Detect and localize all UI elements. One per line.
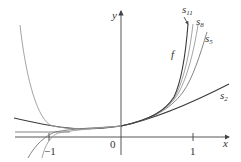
origin-label: 0 <box>110 138 116 150</box>
curve-label-s2: s2 <box>220 89 228 103</box>
curve-s11 <box>121 24 193 126</box>
y-axis-label: y <box>111 9 117 21</box>
x-axis-label: x <box>222 137 228 149</box>
curve-s-even-left <box>20 25 121 129</box>
curve-label-s5: s5 <box>205 32 213 46</box>
curve-label-s11: s11 <box>182 3 193 17</box>
s11-pointer-arrow <box>184 17 188 24</box>
tick-label-minus-1: −1 <box>44 145 56 157</box>
series-approximation-diagram: y x 0 −1 1 f s11 s8 s5 s2 <box>0 0 241 162</box>
curve-f <box>121 24 188 126</box>
tick-label-1: 1 <box>190 145 196 157</box>
curve-label-s8: s8 <box>196 15 204 29</box>
curve-label-f: f <box>171 48 176 60</box>
